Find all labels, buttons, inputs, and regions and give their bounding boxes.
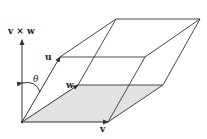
- edge-vw-uvw: [163, 19, 200, 85]
- edge-w-uw: [78, 19, 116, 85]
- edge-u-uw: [60, 19, 116, 57]
- u-label: u: [45, 52, 52, 62]
- base-parallelogram: [22, 85, 163, 122]
- origin-point: [21, 121, 23, 123]
- theta-label: θ: [33, 74, 39, 84]
- edge-uv-uvw: [145, 19, 200, 57]
- v-label: v: [99, 124, 106, 134]
- w-label: w: [65, 80, 74, 90]
- cross-product-label: v × w: [7, 26, 35, 36]
- parallelepiped-diagram: v × w u w v θ: [0, 0, 207, 139]
